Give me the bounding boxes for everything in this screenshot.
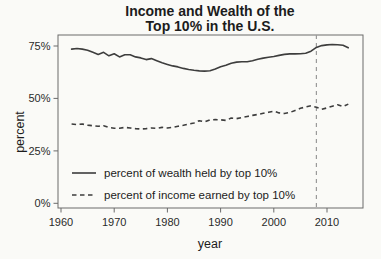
legend-label-wealth: percent of wealth held by top 10% bbox=[104, 167, 277, 179]
x-tick-label: 2000 bbox=[262, 216, 286, 228]
chart-title-line2: Top 10% in the U.S. bbox=[146, 18, 275, 34]
income-line bbox=[72, 104, 349, 129]
y-axis-label: percent bbox=[13, 111, 27, 153]
chart-title-line1: Income and Wealth of the bbox=[125, 3, 295, 19]
y-tick-label: 75% bbox=[28, 40, 50, 52]
x-tick-label: 2010 bbox=[315, 216, 339, 228]
y-tick-label: 0% bbox=[35, 197, 51, 209]
income-wealth-chart: Income and Wealth of the Top 10% in the … bbox=[0, 0, 381, 259]
legend-label-income: percent of income earned by top 10% bbox=[104, 189, 295, 201]
wealth-line bbox=[72, 45, 349, 72]
y-tick-label: 25% bbox=[28, 145, 50, 157]
x-tick-label: 1990 bbox=[208, 216, 232, 228]
plot-border bbox=[58, 35, 363, 208]
chart-figure: Income and Wealth of the Top 10% in the … bbox=[0, 0, 381, 259]
x-tick-label: 1970 bbox=[102, 216, 126, 228]
x-axis-label: year bbox=[198, 237, 222, 251]
x-tick-label: 1980 bbox=[155, 216, 179, 228]
y-tick-label: 50% bbox=[28, 92, 50, 104]
x-tick-label: 1960 bbox=[49, 216, 73, 228]
legend: percent of wealth held by top 10% percen… bbox=[72, 167, 295, 201]
